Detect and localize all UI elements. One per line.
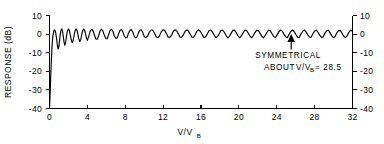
symmetry-annotation-value: = 28.5 [315, 63, 342, 72]
right-ticklabel-neg10: -10 [360, 48, 373, 58]
x-ticklabel-0: 0 [47, 112, 52, 122]
right-ticklabel-10: 10 [360, 11, 370, 21]
x-axis-ticklabels: 0 4 8 12 16 20 24 28 32 [47, 112, 358, 122]
y-axis-title: RESPONSE (dB) [3, 26, 13, 98]
left-ticklabel-neg40: -40 [29, 104, 42, 114]
chart-svg: 10 0 -10 -20 -30 -40 RESPONSE (dB) 10 [0, 0, 384, 144]
left-ticklabel-10: 10 [32, 11, 42, 21]
symmetry-annotation-about: ABOUT [264, 63, 295, 72]
x-ticklabel-8: 8 [123, 112, 128, 122]
left-axis-ticklabels: 10 0 -10 -20 -30 -40 [29, 11, 42, 114]
x-ticklabel-20: 20 [234, 112, 244, 122]
left-y-axis: 10 0 -10 -20 -30 -40 RESPONSE (dB) [3, 11, 50, 114]
x-axis-ticks [50, 105, 353, 109]
left-axis-ticks [46, 16, 50, 109]
response-chart-figure: 10 0 -10 -20 -30 -40 RESPONSE (dB) 10 [0, 0, 384, 144]
left-ticklabel-neg10: -10 [29, 48, 42, 58]
x-ticklabel-24: 24 [272, 112, 282, 122]
symmetry-annotation-line1: SYMMETRICAL [255, 51, 321, 60]
arrow-head [288, 36, 294, 42]
right-y-axis: 10 0 -10 -20 -30 -40 [353, 11, 374, 114]
x-axis-title-subscript: B [197, 132, 202, 139]
right-axis-ticklabels: 10 0 -10 -20 -30 -40 [360, 11, 373, 114]
symmetry-arrow-icon [288, 36, 294, 50]
symmetry-annotation-ratio: V/V [296, 63, 311, 72]
right-ticklabel-neg20: -20 [360, 66, 373, 76]
x-ticklabel-4: 4 [85, 112, 90, 122]
x-axis-title-main: V/V [177, 127, 192, 137]
x-ticklabel-16: 16 [196, 112, 206, 122]
left-ticklabel-neg20: -20 [29, 66, 42, 76]
right-ticklabel-neg30: -30 [360, 85, 373, 95]
right-ticklabel-neg40: -40 [360, 104, 373, 114]
left-ticklabel-0: 0 [37, 29, 42, 39]
x-ticklabel-12: 12 [158, 112, 168, 122]
symmetry-annotation: SYMMETRICAL ABOUT V/V B = 28.5 [255, 51, 341, 73]
x-ticklabel-32: 32 [347, 112, 357, 122]
x-ticklabel-28: 28 [310, 112, 320, 122]
x-axis-title: V/V B [177, 127, 201, 139]
right-ticklabel-0: 0 [360, 29, 365, 39]
left-ticklabel-neg30: -30 [29, 85, 42, 95]
x-axis: 0 4 8 12 16 20 24 28 32 V/V B [47, 105, 358, 139]
right-axis-ticks [353, 16, 357, 109]
